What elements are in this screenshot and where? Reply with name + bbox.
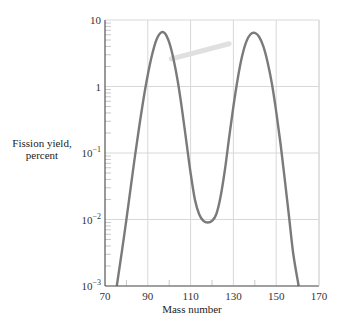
y-tick-label: 10−3 (81, 278, 101, 292)
grid-lines (105, 20, 319, 286)
fission-yield-curve (117, 32, 299, 286)
y-tick-label: 1 (96, 81, 102, 93)
x-tick-label: 150 (268, 290, 285, 302)
fission-yield-chart: 7090110130150170 10−310−210−1110 Mass nu… (0, 0, 339, 325)
y-tick-labels: 10−310−210−1110 (81, 14, 101, 292)
y-axis-title: Fission yield,percent (12, 137, 72, 161)
y-tick-label: 10 (90, 14, 102, 26)
y-axis-title-line: percent (26, 149, 58, 161)
x-tick-label: 170 (311, 290, 328, 302)
x-tick-label: 70 (100, 290, 112, 302)
x-tick-label: 110 (183, 290, 200, 302)
x-tick-label: 130 (225, 290, 242, 302)
x-tick-label: 90 (142, 290, 154, 302)
x-tick-labels: 7090110130150170 (100, 290, 328, 302)
x-axis-title: Mass number (162, 303, 222, 315)
y-tick-label: 10−2 (81, 212, 101, 226)
y-axis-title-line: Fission yield, (12, 137, 72, 149)
leader-line-annotation (171, 44, 229, 59)
y-tick-label: 10−1 (81, 145, 101, 159)
